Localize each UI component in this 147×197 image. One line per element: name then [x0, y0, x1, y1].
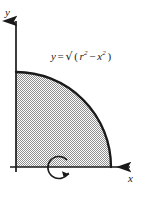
- radical-icon: √: [66, 50, 73, 63]
- equation-equals: =: [56, 50, 65, 62]
- y-axis-label: y: [5, 6, 10, 18]
- diagram-svg: [0, 0, 147, 197]
- equation-minus: −: [88, 50, 97, 62]
- shaded-region: [16, 72, 111, 167]
- equation-open-paren: (: [73, 50, 80, 62]
- figure-canvas: y=√(r2−x2) y x: [0, 0, 147, 197]
- equation-close-paren: ): [106, 50, 113, 62]
- x-axis-label: x: [128, 172, 133, 184]
- equation-label: y=√(r2−x2): [51, 50, 113, 63]
